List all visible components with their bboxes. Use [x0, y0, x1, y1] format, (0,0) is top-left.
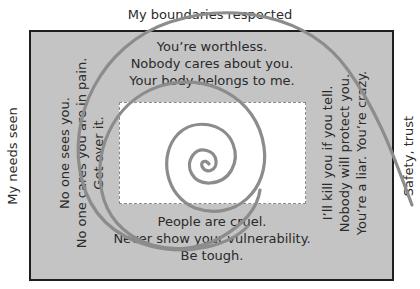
message-line: No one sees you. — [56, 58, 73, 249]
message-line: Never show your vulnerability. — [100, 230, 324, 247]
message-block-bottom: People are cruel. Never show your vulner… — [100, 213, 324, 264]
message-line: You’re a liar. You’re crazy. — [353, 71, 370, 235]
message-line: Be tough. — [100, 247, 324, 264]
message-block-right: I’ll kill you if you tell. Nobody will p… — [319, 71, 370, 235]
message-line: People are cruel. — [100, 213, 324, 230]
label-safety-trust: Safety, trust — [402, 116, 415, 196]
message-block-top: You’re worthless. Nobody cares about you… — [100, 38, 324, 89]
message-block-left: No one sees you. No one cares you are in… — [56, 58, 107, 249]
message-line: You’re worthless. — [100, 38, 324, 55]
trauma-messages-diagram: My boundaries respected My needs seen Sa… — [0, 0, 420, 289]
label-needs-seen: My needs seen — [6, 107, 19, 204]
message-line: Nobody cares about you. — [100, 55, 324, 72]
message-line: I’ll kill you if you tell. — [319, 71, 336, 235]
message-line: Your body belongs to me. — [100, 72, 324, 89]
label-boundaries-respected: My boundaries respected — [0, 8, 420, 21]
message-line: No one cares you are in pain. — [73, 58, 90, 249]
inner-safe-space-box — [119, 102, 306, 204]
message-line: Nobody will protect you. — [336, 71, 353, 235]
